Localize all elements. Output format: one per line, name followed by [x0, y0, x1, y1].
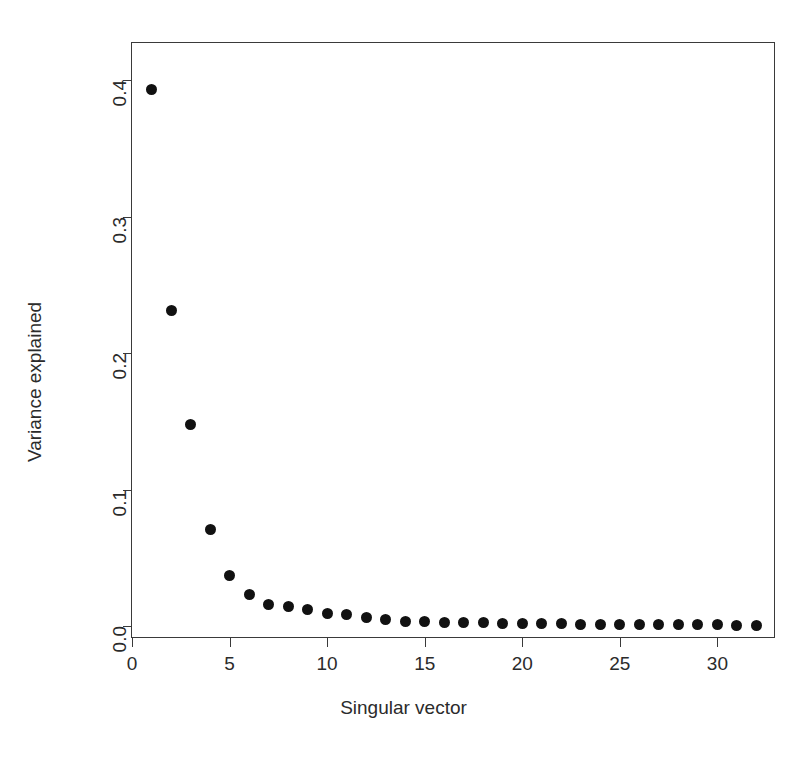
- data-point: [400, 616, 411, 627]
- data-point: [731, 620, 742, 631]
- data-point: [302, 604, 313, 615]
- data-point: [712, 619, 723, 630]
- y-axis-title: Variance explained: [24, 301, 46, 461]
- data-point: [595, 619, 606, 630]
- data-point: [244, 589, 255, 600]
- data-point: [673, 619, 684, 630]
- y-axis-tick-label: 0.3: [109, 217, 131, 243]
- x-axis-tick-mark: [230, 637, 231, 647]
- data-point: [692, 619, 703, 630]
- x-axis-tick-mark: [327, 637, 328, 647]
- data-point: [185, 419, 196, 430]
- data-point: [419, 616, 430, 627]
- data-point: [634, 619, 645, 630]
- x-axis-title: Singular vector: [0, 697, 807, 719]
- data-point: [517, 618, 528, 629]
- x-axis-tick-mark: [522, 637, 523, 647]
- data-point: [439, 617, 450, 628]
- data-point: [224, 570, 235, 581]
- data-point: [322, 608, 333, 619]
- y-axis-title-container: Variance explained: [22, 0, 48, 763]
- data-point: [341, 609, 352, 620]
- data-point: [536, 618, 547, 629]
- data-point: [653, 619, 664, 630]
- x-axis-tick-label: 0: [127, 653, 138, 675]
- x-axis-tick-mark: [717, 637, 718, 647]
- x-axis-tick-label: 20: [512, 653, 533, 675]
- y-axis-tick-label: 0.2: [109, 353, 131, 379]
- scree-plot-screenshot: Variance explained 0.00.10.20.30.4051015…: [0, 0, 807, 763]
- x-axis-tick-label: 10: [317, 653, 338, 675]
- y-axis-tick-label: 0.1: [109, 490, 131, 516]
- data-point: [263, 599, 274, 610]
- data-point: [146, 84, 157, 95]
- data-point: [478, 617, 489, 628]
- x-axis-tick-mark: [620, 637, 621, 647]
- data-point: [575, 619, 586, 630]
- data-point: [205, 524, 216, 535]
- x-axis-tick-label: 25: [609, 653, 630, 675]
- data-point: [283, 601, 294, 612]
- plot-area: 0.00.10.20.30.4051015202530: [132, 43, 774, 637]
- data-point: [751, 620, 762, 631]
- data-point: [497, 618, 508, 629]
- x-axis-tick-label: 5: [224, 653, 235, 675]
- data-point: [458, 617, 469, 628]
- data-point: [166, 305, 177, 316]
- x-axis-tick-label: 30: [707, 653, 728, 675]
- data-point: [556, 618, 567, 629]
- x-axis-tick-mark: [425, 637, 426, 647]
- x-axis-tick-label: 15: [414, 653, 435, 675]
- data-point: [614, 619, 625, 630]
- y-axis-tick-label: 0.0: [109, 626, 131, 652]
- x-axis-tick-mark: [132, 637, 133, 647]
- plot-frame: 0.00.10.20.30.4051015202530: [131, 42, 775, 638]
- data-point: [380, 614, 391, 625]
- y-axis-tick-label: 0.4: [109, 80, 131, 106]
- data-point: [361, 612, 372, 623]
